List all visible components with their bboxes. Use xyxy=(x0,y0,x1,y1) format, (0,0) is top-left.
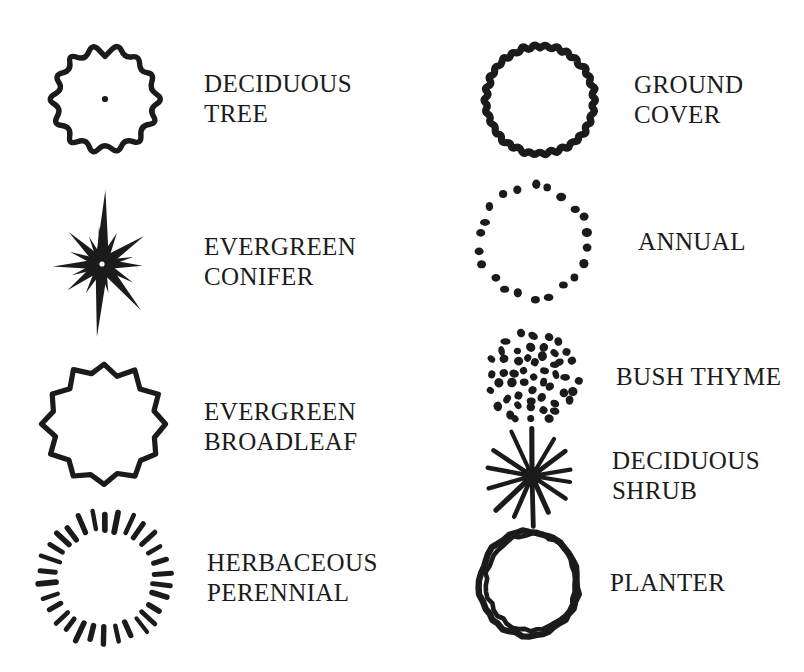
legend-column-left: DECIDUOUS TREE EVERGREEN CONIFER EVERGRE… xyxy=(0,0,402,672)
legend-label-deciduous-tree: DECIDUOUS TREE xyxy=(204,69,352,129)
legend-entry-ground-cover: GROUND COVER xyxy=(470,30,743,170)
legend-entry-deciduous-shrub: DECIDUOUS SHRUB xyxy=(476,420,760,532)
legend-entry-evergreen-conifer: EVERGREEN CONIFER xyxy=(30,182,356,342)
dotted-ring-icon xyxy=(464,172,604,312)
legend-label-evergreen-conifer: EVERGREEN CONIFER xyxy=(204,232,356,292)
legend-label-deciduous-shrub: DECIDUOUS SHRUB xyxy=(612,446,760,506)
legend-entry-annual: ANNUAL xyxy=(464,172,746,312)
legend-entry-evergreen-broadleaf: EVERGREEN BROADLEAF xyxy=(30,352,358,502)
legend-label-planter: PLANTER xyxy=(610,568,725,599)
double-circle-icon xyxy=(474,524,586,642)
legend-label-herbaceous-perennial: HERBACEOUS PERENNIAL xyxy=(207,548,378,608)
legend-label-annual: ANNUAL xyxy=(638,227,746,258)
legend-label-ground-cover: GROUND COVER xyxy=(634,70,743,130)
legend-entry-herbaceous-perennial: HERBACEOUS PERENNIAL xyxy=(28,500,378,655)
fine-scalloped-thick-circle-icon xyxy=(470,30,610,170)
scalloped-circle-with-center-dot-icon xyxy=(30,24,180,174)
spiky-star-burst-icon xyxy=(30,182,180,342)
legend-entry-deciduous-tree: DECIDUOUS TREE xyxy=(30,24,352,174)
legend-column-right: GROUND COVER ANNUAL BUSH THYME xyxy=(402,0,804,672)
radial-line-burst-icon xyxy=(476,420,588,532)
dot-filled-circle-icon xyxy=(474,318,592,436)
radial-dash-ring-icon xyxy=(28,500,183,655)
pointed-star-polygon-icon xyxy=(30,352,180,502)
legend-entry-planter: PLANTER xyxy=(474,524,725,642)
plant-symbol-legend: DECIDUOUS TREE EVERGREEN CONIFER EVERGRE… xyxy=(0,0,804,672)
legend-label-evergreen-broadleaf: EVERGREEN BROADLEAF xyxy=(204,397,358,457)
legend-entry-bush-thyme: BUSH THYME xyxy=(474,318,781,436)
legend-label-bush-thyme: BUSH THYME xyxy=(616,362,781,393)
